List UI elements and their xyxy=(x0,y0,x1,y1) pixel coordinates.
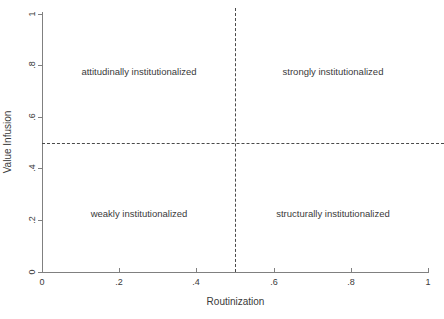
x-tick-mark-5 xyxy=(428,268,429,273)
x-tick-label-1: .2 xyxy=(115,277,123,287)
y-tick-label-0: 0 xyxy=(27,269,37,274)
x-tick-mark-1 xyxy=(119,268,120,273)
y-tick-label-1: .2 xyxy=(27,216,37,224)
y-tick-mark-4 xyxy=(38,65,43,66)
x-tick-mark-4 xyxy=(351,268,352,273)
y-tick-label-3: .6 xyxy=(27,113,37,121)
y-tick-mark-1 xyxy=(38,220,43,221)
x-axis-title: Routinization xyxy=(42,296,429,308)
y-tick-label-1-wrap: .2 xyxy=(27,215,37,225)
y-tick-label-0-wrap: 0 xyxy=(27,267,37,277)
x-tick-label-0: 0 xyxy=(39,277,44,287)
x-tick-label-4: .8 xyxy=(347,277,355,287)
chart-figure: 0 .2 .4 .6 .8 1 0 .2 .4 .6 .8 1 attitudi… xyxy=(0,0,444,319)
x-tick-label-2: .4 xyxy=(192,277,200,287)
y-tick-label-2: .4 xyxy=(27,164,37,172)
y-tick-mark-5 xyxy=(38,14,43,15)
y-tick-label-5-wrap: 1 xyxy=(27,9,37,19)
value-infusion-threshold-line xyxy=(42,143,444,144)
y-tick-mark-0 xyxy=(38,272,43,273)
annotation-weakly-institutionalized: weakly institutionalized xyxy=(91,208,188,220)
y-axis-title: Value Infusion xyxy=(2,111,14,174)
x-axis-line xyxy=(42,272,429,273)
y-axis-title-wrap: Value Infusion xyxy=(0,92,16,192)
routinization-threshold-line xyxy=(235,8,236,272)
annotation-strongly-institutionalized: strongly institutionalized xyxy=(283,66,384,78)
x-tick-label-5: 1 xyxy=(425,277,430,287)
x-tick-mark-2 xyxy=(196,268,197,273)
y-tick-mark-2 xyxy=(38,168,43,169)
annotation-structurally-institutionalized: structurally institutionalized xyxy=(276,208,390,220)
x-tick-label-3: .6 xyxy=(270,277,278,287)
x-tick-mark-3 xyxy=(274,268,275,273)
y-tick-mark-3 xyxy=(38,117,43,118)
annotation-attitudinally-institutionalized: attitudinally institutionalized xyxy=(81,66,196,78)
y-tick-label-4-wrap: .8 xyxy=(27,60,37,70)
y-tick-label-2-wrap: .4 xyxy=(27,163,37,173)
y-tick-label-4: .8 xyxy=(27,61,37,69)
y-tick-label-5: 1 xyxy=(27,11,37,16)
y-tick-label-3-wrap: .6 xyxy=(27,112,37,122)
